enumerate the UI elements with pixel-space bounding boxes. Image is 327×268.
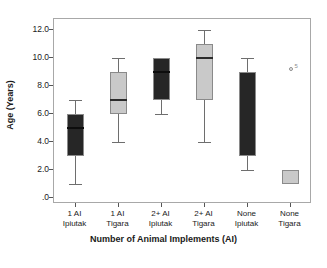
median-line bbox=[196, 57, 213, 59]
x-tick-label-line1: None bbox=[280, 209, 299, 218]
box-iqr-rect bbox=[153, 58, 170, 100]
x-axis-tick-mark bbox=[161, 203, 162, 207]
lower-whisker-line bbox=[247, 156, 248, 170]
lower-whisker-cap bbox=[198, 142, 211, 143]
lower-whisker-cap bbox=[155, 114, 168, 115]
plot-area: 5 bbox=[53, 18, 311, 203]
x-axis-tick-mark bbox=[75, 203, 76, 207]
y-axis-tick-labels: 12.010.08.06.04.02.0.0 bbox=[18, 0, 49, 268]
y-axis-tick-label: 8.0 bbox=[37, 79, 49, 91]
lower-whisker-cap bbox=[69, 184, 82, 185]
outlier-case-label: 5 bbox=[295, 63, 298, 69]
x-axis-title: Number of Animal Implements (AI) bbox=[0, 234, 327, 244]
box-plot-box-group: 5 bbox=[270, 19, 312, 202]
upper-whisker-line bbox=[204, 30, 205, 44]
x-axis-tick-label: NoneTigara bbox=[263, 209, 317, 229]
lower-whisker-line bbox=[75, 156, 76, 184]
y-axis-tick-mark bbox=[49, 85, 53, 86]
box-iqr-rect bbox=[196, 44, 213, 100]
y-axis-tick-mark bbox=[49, 197, 53, 198]
y-axis-title: Age (Years) bbox=[0, 0, 20, 210]
outlier-marker bbox=[289, 67, 293, 71]
median-line bbox=[67, 127, 84, 129]
y-axis-tick-label: 12.0 bbox=[32, 23, 49, 35]
box-iqr-rect bbox=[110, 72, 127, 114]
y-axis-tick-mark bbox=[49, 141, 53, 142]
box-plot-box-group bbox=[98, 19, 140, 202]
box-plot-box-group bbox=[227, 19, 269, 202]
y-axis-tick-mark bbox=[49, 29, 53, 30]
box-plot-box-group bbox=[141, 19, 183, 202]
median-line bbox=[110, 99, 127, 101]
median-line bbox=[153, 71, 170, 73]
box-plot-figure: Age (Years) 12.010.08.06.04.02.0.0 5 Num… bbox=[0, 0, 327, 268]
y-axis-tick-label: 10.0 bbox=[32, 51, 49, 63]
upper-whisker-line bbox=[118, 58, 119, 72]
upper-whisker-cap bbox=[69, 100, 82, 101]
x-axis-tick-mark bbox=[204, 203, 205, 207]
x-axis-tick-mark bbox=[118, 203, 119, 207]
upper-whisker-cap bbox=[198, 30, 211, 31]
upper-whisker-line bbox=[75, 100, 76, 114]
upper-whisker-cap bbox=[241, 58, 254, 59]
lower-whisker-line bbox=[161, 100, 162, 114]
x-tick-label-line1: 1 AI bbox=[68, 209, 82, 218]
lower-whisker-line bbox=[118, 114, 119, 142]
box-plot-box-group bbox=[55, 19, 97, 202]
x-axis-tick-mark bbox=[247, 203, 248, 207]
lower-whisker-cap bbox=[241, 170, 254, 171]
x-tick-label-line1: None bbox=[237, 209, 256, 218]
y-axis-tick-label: .0 bbox=[42, 191, 49, 203]
lower-whisker-cap bbox=[112, 142, 125, 143]
y-axis-tick-mark bbox=[49, 57, 53, 58]
lower-whisker-line bbox=[204, 100, 205, 142]
y-axis-title-text: Age (Years) bbox=[5, 80, 15, 130]
x-axis-tick-mark bbox=[290, 203, 291, 207]
y-axis-tick-mark bbox=[49, 169, 53, 170]
upper-whisker-cap bbox=[112, 58, 125, 59]
box-iqr-rect bbox=[282, 170, 299, 184]
y-axis-tick-mark bbox=[49, 113, 53, 114]
x-tick-label-line1: 2+ AI bbox=[151, 209, 169, 218]
upper-whisker-line bbox=[247, 58, 248, 72]
box-iqr-rect bbox=[67, 114, 84, 156]
x-tick-label-line1: 2+ AI bbox=[194, 209, 212, 218]
y-axis-tick-label: 2.0 bbox=[37, 163, 49, 175]
y-axis-tick-label: 4.0 bbox=[37, 135, 49, 147]
y-axis-tick-label: 6.0 bbox=[37, 107, 49, 119]
box-iqr-rect bbox=[239, 72, 256, 156]
x-tick-label-line1: 1 AI bbox=[111, 209, 125, 218]
box-plot-box-group bbox=[184, 19, 226, 202]
x-tick-label-line2: Tigara bbox=[263, 219, 317, 229]
